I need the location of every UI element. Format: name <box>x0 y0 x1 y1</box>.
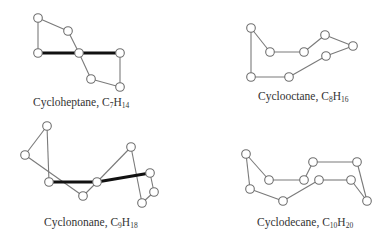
carbon-atom-node <box>347 176 356 185</box>
carbon-atom-node <box>300 48 309 57</box>
bond-line <box>246 154 269 180</box>
caption-cycloheptane: Cycloheptane, C7H14 <box>33 97 129 110</box>
carbon-atom-node <box>247 73 256 82</box>
carbon-atom-node <box>116 83 125 92</box>
carbon-atom-node <box>265 176 274 185</box>
caption-cyclodecane: Cyclodecane, C10H20 <box>257 217 353 230</box>
carbon-atom-node <box>349 42 358 51</box>
molecule-cyclooctane <box>247 24 358 82</box>
carbon-atom-node <box>266 48 275 57</box>
carbon-atom-node <box>322 52 331 61</box>
carbon-atom-node <box>353 158 362 167</box>
carbon-atom-node <box>146 169 155 178</box>
carbon-atom-node <box>21 151 30 160</box>
carbon-atom-node <box>93 178 102 187</box>
molecule-name: Cycloheptane <box>33 96 96 108</box>
cycloalkane-conformations-figure <box>0 0 381 240</box>
bond-line <box>25 126 47 155</box>
hydrogen-count: 20 <box>346 221 354 230</box>
bond-line <box>47 126 49 182</box>
bond-line <box>38 18 68 31</box>
carbon-atom-node <box>116 49 125 58</box>
carbon-atom-node <box>300 176 309 185</box>
formula-carbon: C <box>102 96 110 108</box>
carbon-atom-node <box>45 178 54 187</box>
carbon-atom-node <box>75 49 84 58</box>
molecule-cycloheptane <box>34 14 125 92</box>
bond-line <box>289 56 326 77</box>
carbon-atom-node <box>138 199 147 208</box>
carbon-atom-node <box>150 188 159 197</box>
bond-line <box>25 155 83 196</box>
bond-line <box>250 189 283 201</box>
carbon-atom-node <box>127 143 136 152</box>
formula-carbon: C <box>110 216 118 228</box>
carbon-atom-node <box>34 49 43 58</box>
carbon-atom-node <box>242 150 251 159</box>
carbon-atom-node <box>247 24 256 33</box>
carbon-atom-node <box>309 158 318 167</box>
hydrogen-count: 14 <box>122 101 130 110</box>
carbon-atom-node <box>34 14 43 23</box>
molecule-cyclodecane <box>242 150 372 206</box>
formula-hydrogen: H <box>122 216 130 228</box>
molecule-cyclononane <box>21 122 159 208</box>
formula-carbon: C <box>322 216 330 228</box>
carbon-atom-node <box>285 73 294 82</box>
molecule-name: Cyclononane <box>44 216 105 228</box>
carbon-atom-node <box>79 192 88 201</box>
formula-carbon: C <box>321 90 329 102</box>
formula-hydrogen: H <box>113 96 121 108</box>
bond-line <box>246 154 250 189</box>
carbon-atom-node <box>87 75 96 84</box>
caption-cyclooctane: Cyclooctane, C8H16 <box>258 91 348 104</box>
carbon-atom-node <box>43 122 52 131</box>
carbon-atom-node <box>321 31 330 40</box>
caption-cyclononane: Cyclononane, C9H18 <box>44 217 138 230</box>
formula-hydrogen: H <box>337 216 345 228</box>
hydrogen-count: 18 <box>130 221 138 230</box>
carbon-atom-node <box>64 27 73 36</box>
carbon-atom-node <box>315 176 324 185</box>
molecule-name: Cyclooctane <box>258 90 315 102</box>
molecule-name: Cyclodecane <box>257 216 316 228</box>
formula-hydrogen: H <box>333 90 341 102</box>
hydrogen-count: 16 <box>341 95 349 104</box>
carbon-atom-node <box>363 197 372 206</box>
carbon-atom-node <box>246 185 255 194</box>
carbon-atom-node <box>279 197 288 206</box>
